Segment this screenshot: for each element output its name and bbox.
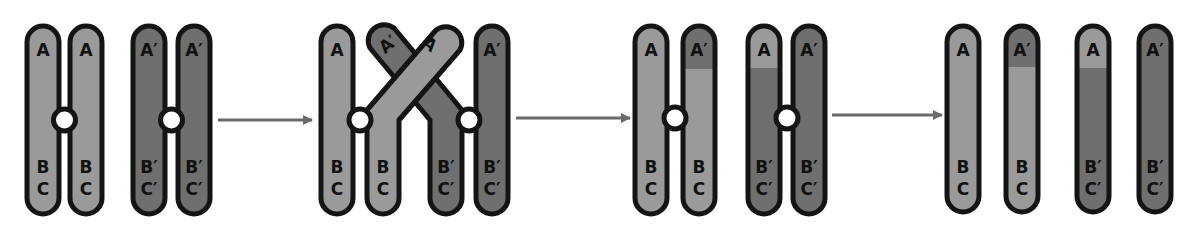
- gene-label: C′: [141, 179, 158, 199]
- gene-label: B′: [185, 157, 203, 177]
- gene-label: C′: [1085, 179, 1102, 199]
- gene-label: C: [957, 179, 969, 199]
- gene-label: A′: [1013, 40, 1031, 60]
- gene-label: B′: [1146, 157, 1164, 177]
- gene-label: C: [80, 179, 92, 199]
- centromere: [664, 107, 686, 129]
- stage-2-crossing-over: A B C A B C A′ B′ C′ A′ B′ C′: [321, 25, 508, 214]
- gene-label: A′: [185, 40, 203, 60]
- stage-1-homologous-pair: A B C A B C A′ B′ C′ A′ B′ C′: [27, 26, 210, 214]
- gene-label: A: [1086, 40, 1100, 60]
- stage-3-recombined-pair: A B C A′ B C A B′ C′ A′ B′ C′: [635, 26, 825, 214]
- gene-label: B: [957, 157, 970, 177]
- gene-label: B: [693, 157, 706, 177]
- crossing-over-diagram: A B C A B C A′ B′ C′ A′ B′ C′ A B C A B …: [0, 0, 1195, 232]
- gene-label: C: [37, 179, 49, 199]
- centromere: [349, 109, 371, 131]
- gene-label: C′: [484, 179, 501, 199]
- gene-label: A: [79, 40, 93, 60]
- gene-label: C: [377, 179, 389, 199]
- gene-label: B′: [755, 157, 773, 177]
- centromere: [161, 109, 183, 131]
- gene-label: C: [1016, 179, 1028, 199]
- gene-label: B: [80, 157, 93, 177]
- gene-label: B′: [140, 157, 158, 177]
- gene-label: B: [377, 157, 390, 177]
- gene-label: A: [36, 40, 50, 60]
- gene-label: A: [956, 40, 970, 60]
- gene-label: B: [1016, 157, 1029, 177]
- stage-4-separated-chromatids: A B C A′ B C A B′ C′ A′ B′ C′: [947, 26, 1171, 212]
- gene-label: B′: [800, 157, 818, 177]
- gene-label: A′: [483, 40, 501, 60]
- centromere: [54, 109, 76, 131]
- centromere: [776, 107, 798, 129]
- gene-label: C′: [756, 179, 773, 199]
- gene-label: C: [693, 179, 705, 199]
- gene-label: C: [645, 179, 657, 199]
- gene-label: A: [644, 40, 658, 60]
- gene-label: A: [757, 40, 771, 60]
- gene-label: C: [331, 179, 343, 199]
- gene-label: A′: [1146, 40, 1164, 60]
- gene-label: C′: [438, 179, 455, 199]
- gene-label: C′: [801, 179, 818, 199]
- gene-label: C′: [1147, 179, 1164, 199]
- gene-label: B: [331, 157, 344, 177]
- gene-label: B: [645, 157, 658, 177]
- gene-label: B′: [1084, 157, 1102, 177]
- gene-label: B′: [483, 157, 501, 177]
- gene-label: A′: [690, 40, 708, 60]
- gene-label: A: [330, 40, 344, 60]
- gene-label: B′: [437, 157, 455, 177]
- centromere: [458, 109, 480, 131]
- gene-label: A′: [800, 40, 818, 60]
- gene-label: C′: [186, 179, 203, 199]
- gene-label: A′: [140, 40, 158, 60]
- gene-label: B: [37, 157, 50, 177]
